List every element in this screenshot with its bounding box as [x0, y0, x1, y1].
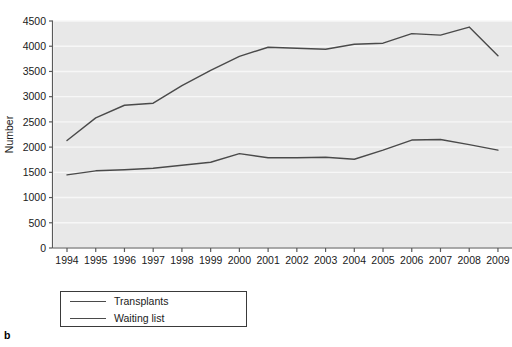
chart-canvas: 050010001500200025003000350040004500 199… — [0, 0, 512, 265]
y-axis-ticks: 050010001500200025003000350040004500 — [23, 15, 53, 254]
svg-text:0: 0 — [40, 242, 46, 254]
svg-text:2000: 2000 — [23, 141, 47, 153]
svg-text:2003: 2003 — [314, 254, 338, 265]
chart-legend: Transplants Waiting list — [60, 291, 247, 327]
svg-text:2006: 2006 — [400, 254, 424, 265]
legend-item-waiting-list: Waiting list — [61, 309, 246, 327]
legend-line-icon — [70, 313, 106, 323]
svg-text:4000: 4000 — [23, 40, 47, 52]
line-chart: 050010001500200025003000350040004500 199… — [0, 0, 512, 265]
svg-text:2002: 2002 — [285, 254, 309, 265]
svg-text:1995: 1995 — [84, 254, 108, 265]
svg-text:2500: 2500 — [23, 116, 47, 128]
legend-line-icon — [70, 296, 106, 306]
svg-text:4500: 4500 — [23, 15, 47, 27]
svg-text:2007: 2007 — [429, 254, 453, 265]
svg-text:500: 500 — [28, 217, 46, 229]
svg-text:1998: 1998 — [170, 254, 194, 265]
svg-text:2009: 2009 — [486, 254, 510, 265]
legend-label-transplants: Transplants — [114, 296, 168, 307]
panel-letter: b — [4, 330, 10, 341]
svg-text:2005: 2005 — [371, 254, 395, 265]
plot-background — [54, 21, 512, 248]
figure-panel-b: 050010001500200025003000350040004500 199… — [0, 0, 512, 347]
svg-text:1500: 1500 — [23, 166, 47, 178]
x-axis-ticks: 1994199519961997199819992000200120022003… — [55, 248, 509, 265]
svg-text:3000: 3000 — [23, 90, 47, 102]
y-axis-title: Number — [3, 115, 15, 153]
svg-text:1999: 1999 — [199, 254, 223, 265]
legend-label-waiting-list: Waiting list — [114, 313, 164, 324]
svg-text:2008: 2008 — [458, 254, 482, 265]
svg-text:2001: 2001 — [256, 254, 280, 265]
svg-text:Number: Number — [3, 115, 15, 153]
svg-text:2004: 2004 — [343, 254, 367, 265]
svg-text:1996: 1996 — [113, 254, 137, 265]
svg-text:1997: 1997 — [142, 254, 166, 265]
legend-item-transplants: Transplants — [61, 292, 246, 310]
svg-text:3500: 3500 — [23, 65, 47, 77]
svg-text:2000: 2000 — [228, 254, 252, 265]
svg-text:1000: 1000 — [23, 191, 47, 203]
svg-text:1994: 1994 — [55, 254, 79, 265]
